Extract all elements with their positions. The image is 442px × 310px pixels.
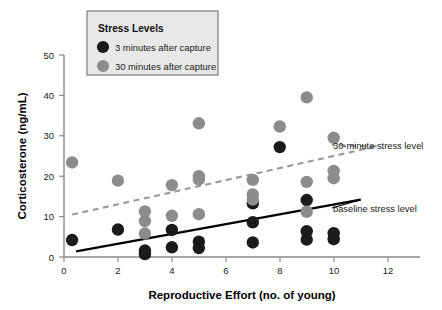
- x-tick-label: 8: [277, 265, 282, 276]
- data-point: [166, 179, 178, 191]
- data-point: [274, 141, 286, 153]
- data-point: [139, 248, 151, 260]
- data-point: [274, 120, 286, 132]
- y-tick-group: 0 10 20 30 40 50: [43, 50, 64, 263]
- data-point: [139, 227, 151, 239]
- y-tick-label: 10: [43, 211, 54, 222]
- scatter-chart: 0 10 20 30 40 50 0 2 4 6 8 10: [0, 0, 442, 310]
- data-point: [193, 208, 205, 220]
- series-30-minutes-after-capture: [66, 91, 340, 240]
- y-tick-label: 40: [43, 90, 54, 101]
- y-tick-label: 20: [43, 171, 54, 182]
- data-point: [166, 224, 178, 236]
- y-tick-label: 0: [49, 252, 54, 263]
- data-point: [66, 156, 78, 168]
- annotation-30-minute-stress-level: 30-minute stress level: [333, 141, 423, 151]
- x-tick-label: 6: [223, 265, 228, 276]
- data-point: [112, 223, 124, 235]
- data-point: [166, 210, 178, 222]
- data-point: [247, 193, 259, 205]
- data-point: [301, 233, 313, 245]
- x-axis-title: Reproductive Effort (no. of young): [148, 289, 335, 301]
- legend-label-3-minutes: 3 minutes after capture: [115, 42, 211, 53]
- data-point: [193, 117, 205, 129]
- annotation-layer: 30-minute stress level baseline stress l…: [333, 141, 423, 214]
- data-point: [66, 234, 78, 246]
- x-tick-group: 0 2 4 6 8 10 12: [61, 257, 393, 276]
- legend-label-30-minutes: 30 minutes after capture: [115, 61, 216, 72]
- data-point: [301, 176, 313, 188]
- data-point: [327, 172, 339, 184]
- y-tick-label: 30: [43, 130, 54, 141]
- y-axis-title: Corticosterone (ng/mL): [16, 92, 28, 219]
- data-point: [193, 242, 205, 254]
- data-point: [166, 241, 178, 253]
- data-point: [327, 233, 339, 245]
- data-point: [139, 215, 151, 227]
- data-point: [247, 236, 259, 248]
- data-point: [193, 173, 205, 185]
- annotation-baseline-stress-level: baseline stress level: [333, 204, 417, 214]
- chart-canvas: 0 10 20 30 40 50 0 2 4 6 8 10: [0, 0, 442, 310]
- series-3-minutes-after-capture: [66, 141, 340, 260]
- x-tick-label: 2: [115, 265, 120, 276]
- x-tick-label: 12: [383, 265, 394, 276]
- x-tick-label: 0: [61, 265, 66, 276]
- data-point: [301, 206, 313, 218]
- x-tick-label: 4: [169, 265, 174, 276]
- data-points-layer: [66, 91, 340, 260]
- data-point: [112, 174, 124, 186]
- data-point: [301, 194, 313, 206]
- legend-marker-3-minutes-icon: [97, 41, 109, 53]
- legend-title: Stress Levels: [98, 23, 164, 34]
- data-point: [247, 174, 259, 186]
- legend-marker-30-minutes-icon: [97, 60, 109, 72]
- data-point: [301, 91, 313, 103]
- legend: Stress Levels 3 minutes after capture 30…: [87, 11, 218, 75]
- x-tick-label: 10: [329, 265, 340, 276]
- data-point: [247, 216, 259, 228]
- y-tick-label: 50: [43, 50, 54, 61]
